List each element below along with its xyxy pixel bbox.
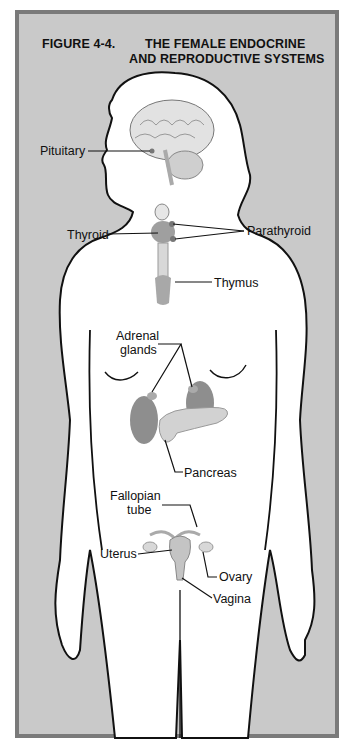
female-body-diagram bbox=[0, 0, 355, 753]
figure-title-line1: THE FEMALE ENDOCRINE bbox=[145, 37, 305, 51]
left-ovary bbox=[143, 542, 157, 552]
label-ovary: Ovary bbox=[219, 570, 252, 584]
label-vagina: Vagina bbox=[213, 592, 251, 606]
pituitary-gland bbox=[150, 149, 155, 154]
label-fallopian-line2: tube bbox=[127, 503, 151, 517]
figure-title-line2: AND REPRODUCTIVE SYSTEMS bbox=[129, 52, 324, 66]
right-adrenal bbox=[188, 385, 198, 393]
left-adrenal bbox=[147, 392, 157, 400]
label-thymus: Thymus bbox=[214, 276, 258, 290]
label-pancreas: Pancreas bbox=[184, 466, 237, 480]
label-thyroid: Thyroid bbox=[67, 228, 109, 242]
figure-number: FIGURE 4-4. bbox=[42, 37, 115, 51]
right-ovary bbox=[199, 542, 213, 552]
label-adrenal-line1: Adrenal bbox=[116, 329, 159, 343]
label-pituitary: Pituitary bbox=[40, 144, 85, 158]
label-uterus: Uterus bbox=[100, 547, 137, 561]
thymus-gland bbox=[155, 275, 171, 305]
label-parathyroid: Parathyroid bbox=[247, 224, 311, 238]
label-adrenal-line2: glands bbox=[120, 343, 157, 357]
left-kidney bbox=[130, 396, 158, 444]
label-fallopian-line1: Fallopian bbox=[110, 489, 161, 503]
